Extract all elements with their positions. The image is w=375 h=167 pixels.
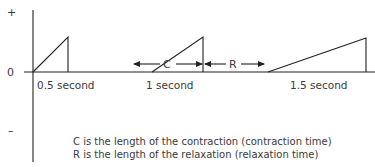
plus-label: + [7, 6, 16, 19]
caption-contraction: C is the length of the contraction (cont… [73, 136, 332, 147]
wave-label-1-5-second: 1.5 second [290, 79, 347, 91]
twitch-diagram: + 0 – 0.5 second 1 second 1.5 second C R… [0, 0, 375, 167]
contraction-label: C [163, 58, 171, 71]
wave-1-second [152, 37, 203, 72]
wave-label-0-5-second: 0.5 second [37, 79, 94, 91]
caption-relaxation: R is the length of the relaxation (relax… [73, 149, 318, 160]
zero-label: 0 [7, 66, 14, 79]
wave-1-5-second [268, 38, 366, 72]
wave-0-5-second [33, 37, 68, 72]
minus-label: – [8, 124, 14, 137]
wave-label-1-second: 1 second [146, 79, 193, 91]
relaxation-label: R [229, 58, 237, 71]
